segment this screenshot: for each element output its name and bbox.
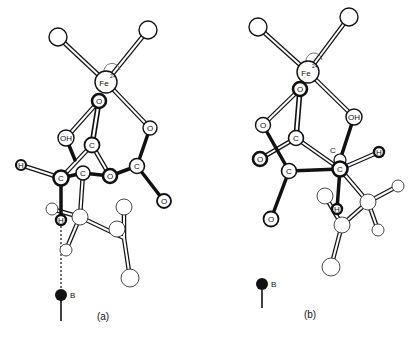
base-b-b: B bbox=[256, 278, 276, 290]
atom-o-mid-a: O bbox=[103, 169, 117, 183]
atom-label: C bbox=[134, 162, 140, 171]
atom-o-right-a: O bbox=[143, 121, 157, 135]
atom-o-left-b: O bbox=[256, 118, 271, 133]
atom-h-bottom-b: H bbox=[332, 204, 342, 214]
atom-label: H bbox=[334, 205, 340, 214]
atom-o-far-left-b: O bbox=[253, 152, 267, 166]
atom-c-upper-b: C bbox=[289, 131, 304, 146]
molecular-diagram-figure: Fe 2+ O OH O C H C C bbox=[0, 0, 420, 338]
atom-o-bottom-b: O bbox=[264, 212, 279, 227]
atom-label: C bbox=[286, 167, 292, 176]
atom-label: O bbox=[161, 197, 167, 206]
atom-o-top-a: O bbox=[92, 94, 106, 108]
atom-label: C bbox=[80, 169, 86, 178]
fe-label: Fe bbox=[99, 79, 109, 88]
ligand-atoms-b bbox=[249, 8, 358, 36]
atom-c-left-a: C bbox=[54, 171, 69, 186]
atom-h-left-a: H bbox=[16, 160, 26, 170]
atom-label: C bbox=[89, 141, 95, 150]
atom-c-right-a: C bbox=[130, 159, 145, 174]
panel-caption-a: (a) bbox=[97, 311, 109, 322]
atom-label: H bbox=[18, 161, 24, 170]
panel-a: Fe 2+ O OH O C H C C bbox=[16, 21, 171, 322]
atom-label: H bbox=[376, 148, 382, 157]
atom-o-bottom-a: O bbox=[157, 194, 171, 208]
atom-label: O bbox=[147, 124, 153, 133]
atom-label: O bbox=[96, 97, 102, 106]
atom-label: O bbox=[268, 215, 274, 224]
atom-c-right-b: C bbox=[333, 162, 348, 177]
atom-c-upper-a: C bbox=[85, 138, 100, 153]
atom-label: C bbox=[330, 146, 336, 155]
atom-label: O bbox=[257, 155, 263, 164]
atom-h-bottom-a: H bbox=[56, 215, 66, 225]
atom-o-top-b: O bbox=[293, 82, 307, 96]
atom-label: O bbox=[297, 85, 303, 94]
fe-atom-b: Fe 2+ bbox=[297, 61, 319, 83]
atom-c-mid-a: C bbox=[76, 166, 90, 180]
atom-h-right-b: H bbox=[374, 147, 384, 157]
fe-label: Fe bbox=[301, 69, 311, 78]
panel-b: Fe 2+ O O OH C O C C bbox=[249, 8, 404, 320]
atom-label: C bbox=[337, 165, 343, 174]
atom-oh-a: OH bbox=[58, 130, 74, 146]
hollow-bonds-a bbox=[21, 30, 150, 278]
atom-oh-b: OH bbox=[346, 109, 362, 125]
base-label: B bbox=[70, 291, 75, 300]
fe-atom-a: Fe 2+ bbox=[95, 71, 117, 93]
base-label: B bbox=[271, 280, 276, 289]
atom-c-lower-b: C bbox=[282, 164, 297, 179]
atom-label: C bbox=[293, 134, 299, 143]
fe-charge-label: 2+ bbox=[110, 73, 116, 79]
atom-label: OH bbox=[60, 134, 72, 143]
atom-label: OH bbox=[348, 113, 360, 122]
atom-label: C bbox=[58, 174, 64, 183]
panel-caption-b: (b) bbox=[304, 309, 316, 320]
atom-label: O bbox=[260, 121, 266, 130]
fe-charge-label: 2+ bbox=[312, 63, 318, 69]
atom-label: O bbox=[107, 172, 113, 181]
atom-label: H bbox=[58, 216, 64, 225]
base-b-a: B bbox=[55, 289, 75, 301]
